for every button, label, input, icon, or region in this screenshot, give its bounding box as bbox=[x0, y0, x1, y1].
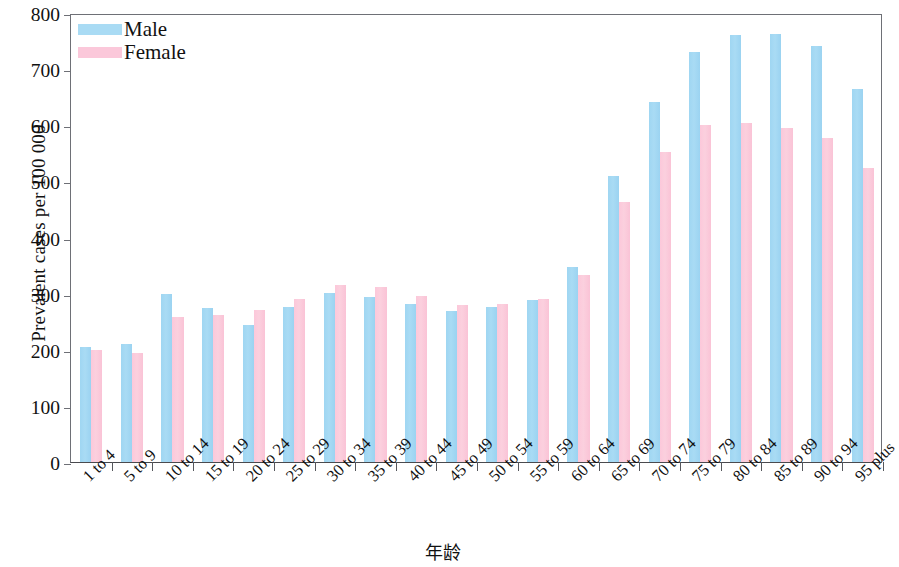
y-axis-tick-label: 200 bbox=[31, 341, 60, 363]
y-axis-tick bbox=[64, 464, 71, 465]
bar-group bbox=[80, 15, 102, 462]
bar-female bbox=[822, 138, 833, 462]
bar-female bbox=[741, 123, 752, 462]
bar-male bbox=[852, 89, 863, 462]
chart-legend: MaleFemale bbox=[78, 18, 186, 64]
bar-group bbox=[811, 15, 833, 462]
bar-female bbox=[619, 202, 630, 462]
bar-female bbox=[294, 299, 305, 462]
bar-male bbox=[608, 176, 619, 462]
bar-group bbox=[364, 15, 386, 462]
plot-area: 0100200300400500600700800 bbox=[70, 14, 882, 463]
bar-group bbox=[486, 15, 508, 462]
bar-group bbox=[527, 15, 549, 462]
legend-label: Male bbox=[124, 19, 167, 40]
bar-female bbox=[700, 125, 711, 462]
y-axis-tick-label: 800 bbox=[31, 4, 60, 26]
bar-group bbox=[243, 15, 265, 462]
bar-female bbox=[781, 128, 792, 463]
bar-female bbox=[375, 287, 386, 462]
bar-female bbox=[254, 310, 265, 462]
y-axis-tick bbox=[64, 15, 71, 16]
bar-male bbox=[527, 300, 538, 462]
bar-group bbox=[161, 15, 183, 462]
bar-group bbox=[202, 15, 224, 462]
bar-group bbox=[852, 15, 874, 462]
bar-male bbox=[811, 46, 822, 462]
bar-group bbox=[283, 15, 305, 462]
bar-group bbox=[649, 15, 671, 462]
y-axis-tick bbox=[64, 183, 71, 184]
bar-female bbox=[335, 285, 346, 462]
y-axis-tick-label: 600 bbox=[31, 116, 60, 138]
bar-male bbox=[80, 347, 91, 462]
y-axis-tick-label: 500 bbox=[31, 172, 60, 194]
bar-female bbox=[538, 299, 549, 462]
bar-female bbox=[497, 304, 508, 462]
legend-swatch-male bbox=[78, 24, 122, 35]
legend-label: Female bbox=[124, 42, 186, 63]
bar-group bbox=[770, 15, 792, 462]
y-axis-tick-label: 300 bbox=[31, 285, 60, 307]
y-axis-tick-label: 700 bbox=[31, 60, 60, 82]
bar-male bbox=[161, 294, 172, 462]
bar-female bbox=[863, 168, 874, 462]
bar-male bbox=[121, 344, 132, 462]
bar-group bbox=[121, 15, 143, 462]
bar-female bbox=[213, 315, 224, 462]
legend-item: Male bbox=[78, 18, 186, 41]
legend-item: Female bbox=[78, 41, 186, 64]
y-axis-tick bbox=[64, 240, 71, 241]
bar-female bbox=[172, 317, 183, 462]
bar-group bbox=[608, 15, 630, 462]
y-axis-tick-label: 0 bbox=[50, 453, 60, 475]
y-axis-tick bbox=[64, 296, 71, 297]
bar-female bbox=[660, 152, 671, 462]
bar-group bbox=[324, 15, 346, 462]
bar-group bbox=[730, 15, 752, 462]
x-axis-title: 年龄 bbox=[0, 538, 885, 564]
bar-male bbox=[567, 267, 578, 462]
bar-group bbox=[446, 15, 468, 462]
bar-group bbox=[689, 15, 711, 462]
bar-male bbox=[364, 297, 375, 462]
bar-male bbox=[770, 34, 781, 462]
legend-swatch-female bbox=[78, 47, 122, 58]
bar-female bbox=[457, 305, 468, 462]
bar-group bbox=[567, 15, 589, 462]
bar-male bbox=[730, 35, 741, 462]
y-axis-tick bbox=[64, 352, 71, 353]
y-axis-tick bbox=[64, 127, 71, 128]
bar-group bbox=[405, 15, 427, 462]
bar-male bbox=[649, 102, 660, 462]
bar-female bbox=[416, 296, 427, 462]
y-axis-tick-label: 400 bbox=[31, 229, 60, 251]
bar-male bbox=[324, 293, 335, 462]
y-axis-tick bbox=[64, 408, 71, 409]
bar-female bbox=[578, 275, 589, 462]
bars-layer bbox=[71, 15, 881, 462]
bar-male bbox=[689, 52, 700, 462]
bar-female bbox=[132, 353, 143, 462]
bar-female bbox=[91, 350, 102, 462]
y-axis-tick-label: 100 bbox=[31, 397, 60, 419]
y-axis-tick bbox=[64, 71, 71, 72]
